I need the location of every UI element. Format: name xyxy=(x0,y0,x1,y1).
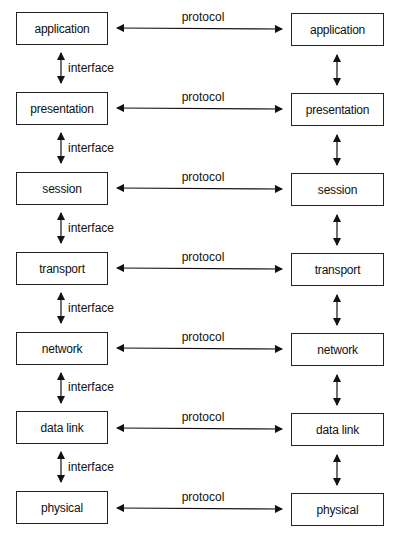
layer-label: session xyxy=(318,183,357,197)
right-layer-transport: transport xyxy=(291,253,384,286)
layer-label: network xyxy=(42,342,83,356)
protocol-arrow-icon xyxy=(117,428,282,429)
right-layer-data-link: data link xyxy=(291,413,384,446)
left-layer-transport: transport xyxy=(16,252,108,285)
left-layer-application: application xyxy=(16,12,108,45)
protocol-arrow-icon xyxy=(117,28,282,29)
right-layer-physical: physical xyxy=(291,493,384,526)
protocol-label: protocol xyxy=(178,170,228,184)
interface-label: interface xyxy=(68,61,114,75)
right-layer-network: network xyxy=(291,333,384,366)
layer-label: data link xyxy=(41,421,84,435)
layer-label: physical xyxy=(41,501,83,515)
protocol-label: protocol xyxy=(178,250,228,264)
protocol-arrow-icon xyxy=(117,268,282,269)
left-layer-session: session xyxy=(16,172,108,205)
protocol-arrow-icon xyxy=(117,508,282,509)
left-layer-data-link: data link xyxy=(16,411,108,444)
layer-label: network xyxy=(317,343,358,357)
left-layer-network: network xyxy=(16,332,108,365)
protocol-label: protocol xyxy=(178,90,228,104)
protocol-arrow-icon xyxy=(117,348,282,349)
interface-label: interface xyxy=(68,460,114,474)
protocol-label: protocol xyxy=(178,10,228,24)
layer-label: data link xyxy=(316,423,359,437)
protocol-arrow-icon xyxy=(117,108,282,109)
interface-label: interface xyxy=(68,141,114,155)
layer-label: session xyxy=(42,182,81,196)
left-layer-presentation: presentation xyxy=(16,92,108,125)
left-layer-physical: physical xyxy=(16,491,108,524)
layer-label: transport xyxy=(315,263,361,277)
protocol-label: protocol xyxy=(178,490,228,504)
right-layer-application: application xyxy=(291,13,384,46)
layer-label: presentation xyxy=(306,103,370,117)
protocol-label: protocol xyxy=(178,330,228,344)
protocol-label: protocol xyxy=(178,410,228,424)
layer-label: application xyxy=(310,23,365,37)
interface-label: interface xyxy=(68,380,114,394)
layer-label: presentation xyxy=(30,102,94,116)
right-layer-session: session xyxy=(291,173,384,206)
interface-label: interface xyxy=(68,301,114,315)
layer-label: transport xyxy=(39,262,85,276)
layer-label: physical xyxy=(317,503,359,517)
interface-label: interface xyxy=(68,221,114,235)
protocol-arrow-icon xyxy=(117,188,282,189)
layer-label: application xyxy=(34,22,89,36)
right-layer-presentation: presentation xyxy=(291,93,384,126)
